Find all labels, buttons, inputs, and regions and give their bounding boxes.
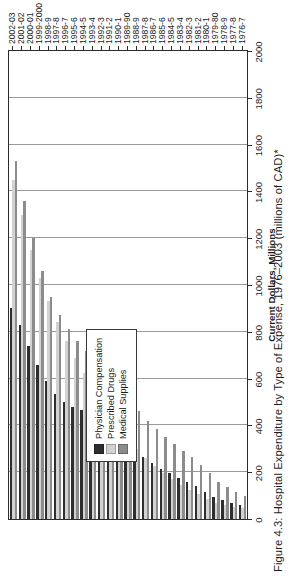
bar-supp [191, 457, 193, 519]
gridline [9, 237, 247, 238]
category-axis-tick [39, 46, 40, 50]
value-axis-tick-label: 400 [253, 418, 264, 434]
bar-supp [156, 429, 158, 519]
legend-swatch-icon-supplies [118, 444, 128, 454]
category-axis-tick [109, 46, 110, 50]
bar-supp [15, 161, 17, 519]
value-axis-tick-label: 1400 [253, 182, 264, 203]
value-axis-tick [248, 519, 252, 520]
legend-label-drugs: Prescribed Drugs [106, 368, 116, 439]
bar-supp [41, 271, 43, 519]
value-axis-tick-label: 800 [253, 325, 264, 341]
category-axis-tick [224, 46, 225, 50]
bar-supp [182, 451, 184, 519]
figure-canvas: Figure 4.3: Hospital Expenditure by Type… [0, 0, 304, 578]
category-axis-tick [198, 46, 199, 50]
value-axis-tick [248, 425, 252, 426]
value-axis-tick [248, 332, 252, 333]
gridline [9, 97, 247, 98]
value-axis-tick [248, 51, 252, 52]
gridline [9, 190, 247, 191]
value-axis-tick [248, 191, 252, 192]
bar-supp [164, 437, 166, 519]
value-axis-tick-label: 1000 [253, 275, 264, 296]
gridline [9, 50, 247, 51]
category-axis-tick [215, 46, 216, 50]
value-axis-tick [248, 238, 252, 239]
category-axis-tick [101, 46, 102, 50]
value-axis-tick-label: 200 [253, 465, 264, 481]
category-axis-tick [153, 46, 154, 50]
value-axis-tick [248, 145, 252, 146]
category-axis-tick [171, 46, 172, 50]
gridline [9, 284, 247, 285]
bar-supp [50, 297, 52, 519]
value-axis-tick-label: 0 [253, 517, 264, 522]
value-axis-tick [248, 472, 252, 473]
category-axis-tick [65, 46, 66, 50]
category-axis-tick [233, 46, 234, 50]
value-axis-tick [248, 98, 252, 99]
legend-item-drugs: Prescribed Drugs [106, 338, 116, 454]
bar-supp [68, 329, 70, 519]
bar-supp [209, 473, 211, 519]
value-axis-tick-label: 1800 [253, 88, 264, 109]
bar-supp [59, 315, 61, 519]
category-axis-tick [118, 46, 119, 50]
chart-legend: Physician Compensation Prescribed Drugs … [86, 329, 137, 462]
legend-label-physician: Physician Compensation [94, 338, 104, 439]
gridline [9, 144, 247, 145]
category-axis-tick [136, 46, 137, 50]
category-axis-tick [242, 46, 243, 50]
legend-item-supplies: Medical Supplies [118, 338, 128, 454]
bar-supp [76, 341, 78, 519]
bar-supp [200, 465, 202, 519]
category-axis-tick [162, 46, 163, 50]
value-axis-tick [248, 379, 252, 380]
bar-supp [244, 496, 246, 519]
value-axis-tick [248, 285, 252, 286]
category-axis-tick [127, 46, 128, 50]
legend-label-supplies: Medical Supplies [118, 370, 128, 439]
category-axis-tick [180, 46, 181, 50]
category-axis-tick [83, 46, 84, 50]
value-axis-tick-label: 1600 [253, 135, 264, 156]
bar-supp [235, 492, 237, 519]
category-axis-tick [92, 46, 93, 50]
legend-swatch-icon-drugs [106, 444, 116, 454]
category-axis-tick [145, 46, 146, 50]
category-axis-label: 1976-7 [237, 17, 247, 44]
category-axis-tick [189, 46, 190, 50]
category-axis-tick [30, 46, 31, 50]
legend-swatch-icon-physician [94, 444, 104, 454]
value-axis-tick-label: 600 [253, 372, 264, 388]
bar-supp [147, 421, 149, 519]
value-axis-tick-label: 1200 [253, 229, 264, 250]
legend-item-physician: Physician Compensation [94, 338, 104, 454]
category-axis-tick [12, 46, 13, 50]
category-axis-tick [48, 46, 49, 50]
value-axis-tick-label: 2000 [253, 41, 264, 62]
category-axis-tick [56, 46, 57, 50]
bar-supp [138, 411, 140, 519]
bar-supp [23, 201, 25, 519]
bar-supp [226, 487, 228, 519]
category-axis-tick [206, 46, 207, 50]
category-axis-tick [74, 46, 75, 50]
category-axis-tick [21, 46, 22, 50]
bar-supp [217, 482, 219, 519]
bar-supp [173, 444, 175, 519]
category-axis: 2002-032001-022000-011999-20001998-91997… [8, 2, 248, 50]
value-axis-title: Current Dollars, Millions [266, 50, 277, 520]
bar-supp [32, 238, 34, 519]
